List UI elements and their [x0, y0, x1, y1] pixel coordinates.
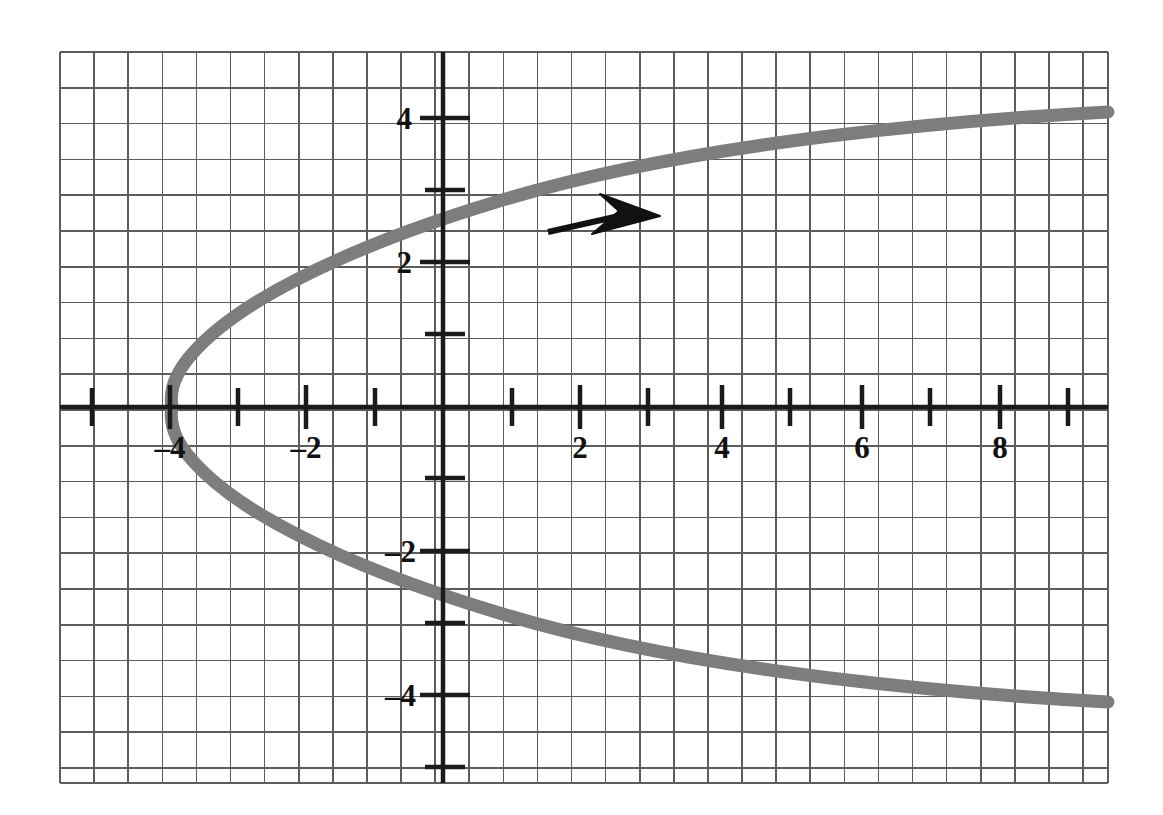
x-tick-label: –4 [154, 430, 186, 465]
y-tick-label: 4 [397, 101, 413, 136]
y-tick-label: –4 [384, 678, 416, 713]
y-tick-label: –2 [384, 534, 416, 569]
x-tick-label: 6 [854, 430, 870, 465]
x-tick-label: 8 [992, 430, 1008, 465]
graph-figure: –4 –2 2 4 6 8 4 2 –2 –4 [0, 0, 1163, 815]
x-tick-label: 2 [572, 430, 588, 465]
y-tick-label: 2 [397, 245, 413, 280]
x-tick-label: 4 [714, 430, 730, 465]
parabola-plot: –4 –2 2 4 6 8 4 2 –2 –4 [0, 0, 1163, 815]
x-tick-label: –2 [290, 430, 322, 465]
